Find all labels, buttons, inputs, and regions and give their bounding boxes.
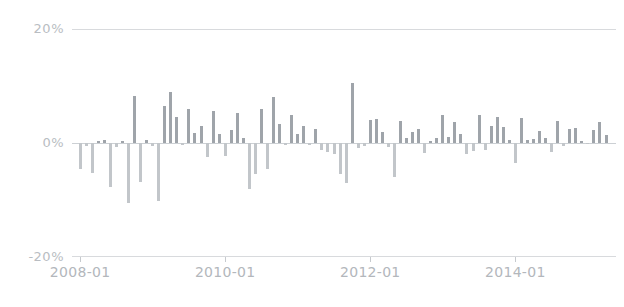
bar <box>496 117 499 143</box>
bar <box>193 133 196 143</box>
bar <box>200 126 203 143</box>
x-axis-tick-mark <box>515 257 516 262</box>
bar <box>175 117 178 143</box>
x-axis-tick-label: 2012-01 <box>340 264 401 280</box>
bar <box>435 138 438 143</box>
bar <box>556 121 559 143</box>
x-axis-tick-label: 2014-01 <box>485 264 546 280</box>
plot-area <box>72 29 616 257</box>
bar <box>91 143 94 173</box>
bar <box>79 143 82 169</box>
bar <box>465 143 468 154</box>
bar <box>139 143 142 182</box>
bar <box>423 143 426 153</box>
bar <box>254 143 257 174</box>
x-axis-tick-label: 2010-01 <box>195 264 256 280</box>
bar <box>314 129 317 143</box>
x-axis-tick-mark <box>225 257 226 262</box>
gridline-minus-20-percent <box>72 256 616 257</box>
bar <box>272 97 275 143</box>
x-axis-tick-label: 2008-01 <box>50 264 111 280</box>
bar <box>266 143 269 169</box>
bar <box>598 122 601 143</box>
bar <box>478 115 481 144</box>
bar <box>248 143 251 189</box>
bar <box>133 96 136 143</box>
bar <box>574 128 577 143</box>
bar <box>320 143 323 150</box>
bar <box>357 143 360 148</box>
bar <box>381 132 384 143</box>
bar <box>514 143 517 163</box>
bar <box>399 121 402 143</box>
bar <box>236 113 239 143</box>
bar <box>538 131 541 143</box>
bar <box>127 143 130 203</box>
bar <box>121 141 124 143</box>
bar <box>369 120 372 143</box>
bar <box>550 143 553 152</box>
bar <box>308 143 311 145</box>
bar <box>85 143 88 146</box>
bar <box>520 118 523 143</box>
bar <box>580 141 583 143</box>
bar <box>296 134 299 143</box>
bar <box>169 92 172 143</box>
bar <box>562 143 565 146</box>
bar <box>339 143 342 174</box>
bar <box>417 129 420 143</box>
y-axis-tick-label-minus-20: -20% <box>4 249 64 264</box>
bar <box>345 143 348 183</box>
bar <box>284 143 287 145</box>
bar <box>447 137 450 143</box>
bar <box>163 106 166 143</box>
x-axis-tick-mark <box>370 257 371 262</box>
bar <box>375 119 378 143</box>
returns-bar-chart: 20% 0% -20% 2008-012010-012012-012014-01 <box>0 0 624 307</box>
bar <box>157 143 160 201</box>
bar <box>363 143 366 146</box>
bar <box>508 140 511 143</box>
y-axis-tick-label-0: 0% <box>4 135 64 150</box>
bar <box>181 143 184 145</box>
bar <box>502 127 505 143</box>
x-axis-tick-mark <box>80 257 81 262</box>
bar <box>97 141 100 143</box>
bar <box>109 143 112 187</box>
bar <box>351 83 354 143</box>
bar <box>441 115 444 144</box>
bar <box>490 126 493 143</box>
bar <box>206 143 209 157</box>
bar <box>411 132 414 143</box>
bar <box>405 138 408 143</box>
bar <box>212 111 215 143</box>
bar <box>278 124 281 143</box>
bar <box>145 140 148 143</box>
bar <box>472 143 475 151</box>
bar <box>393 143 396 177</box>
y-axis-tick-label-20: 20% <box>4 21 64 36</box>
bar <box>429 141 432 143</box>
bar <box>230 130 233 143</box>
bar <box>387 143 390 147</box>
bar <box>260 109 263 143</box>
bar <box>103 140 106 143</box>
bar <box>151 143 154 146</box>
gridline-20-percent <box>72 29 616 30</box>
bar <box>115 143 118 147</box>
bar <box>544 138 547 143</box>
bar <box>290 115 293 144</box>
bar <box>526 140 529 143</box>
bar <box>605 135 608 143</box>
bar <box>333 143 336 154</box>
bar <box>302 126 305 143</box>
bar <box>484 143 487 150</box>
bar <box>187 109 190 143</box>
bar <box>224 143 227 156</box>
bar <box>586 143 589 144</box>
bar <box>218 134 221 143</box>
bar <box>453 122 456 143</box>
bar <box>326 143 329 152</box>
bar <box>532 139 535 143</box>
bar <box>242 138 245 143</box>
